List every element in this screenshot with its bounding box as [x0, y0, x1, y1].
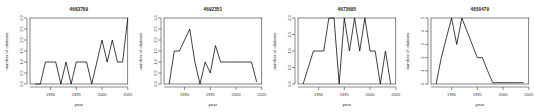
y-tick-label: 3.0 [19, 14, 24, 20]
y-tick-label: 2.0 [287, 14, 292, 20]
x-tick-label: 2005 [257, 92, 267, 97]
chart-panel-4692351: 46923510.00.51.01.52.02.53.0number of ci… [134, 0, 268, 112]
y-tick-label: 3.0 [153, 14, 158, 20]
x-axis-title: year [342, 102, 351, 107]
panel-title: 4650479 [471, 7, 490, 12]
y-tick-label: 1.0 [287, 47, 292, 53]
y-tick-label: 2.5 [19, 25, 24, 31]
y-tick-label: 1.0 [153, 58, 158, 64]
chart-panel-4650479: 4650479012345number of citations19901995… [401, 0, 535, 112]
plot-area-4692351: 46923510.00.51.01.52.02.53.0number of ci… [134, 0, 268, 112]
y-axis-title: number of citations [4, 32, 9, 70]
x-axis-title: year [476, 102, 485, 107]
y-axis-title: number of citations [405, 32, 410, 70]
y-tick-label: 2.0 [19, 36, 24, 42]
plot-box [298, 18, 396, 84]
plot-area-4650479: 4650479012345number of citations19901995… [401, 0, 535, 112]
y-tick-label: 0.0 [287, 80, 292, 86]
x-tick-label: 2005 [391, 92, 401, 97]
y-tick-label: 1.5 [287, 31, 292, 37]
x-tick-label: 2000 [231, 92, 241, 97]
data-line-4650479 [436, 18, 523, 84]
y-tick-label: 0.0 [153, 80, 158, 86]
x-axis-title: year [208, 102, 217, 107]
x-tick-label: 1995 [72, 92, 82, 97]
y-tick-label: 2.0 [153, 36, 158, 42]
x-tick-label: 1990 [314, 92, 324, 97]
x-tick-label: 1995 [339, 92, 349, 97]
y-tick-label: 1.5 [153, 47, 158, 53]
y-tick-label: 1.5 [19, 47, 24, 53]
y-tick-label: 1.0 [19, 58, 24, 64]
data-line-4663769 [35, 18, 128, 84]
x-tick-label: 1990 [180, 92, 190, 97]
chart-panel-4663769: 46637690.00.51.01.52.02.53.0number of ci… [0, 0, 134, 112]
x-tick-label: 2000 [97, 92, 107, 97]
y-axis-title: number of citations [272, 32, 277, 70]
citation-plots-figure: 46637690.00.51.01.52.02.53.0number of ci… [0, 0, 535, 112]
y-tick-label: 0 [420, 82, 425, 85]
plot-area-4673695: 46736950.00.51.01.52.0number of citation… [268, 0, 402, 112]
x-tick-label: 2000 [499, 92, 509, 97]
y-tick-label: 0.0 [19, 80, 24, 86]
x-tick-label: 2005 [524, 92, 534, 97]
y-tick-label: 2 [420, 56, 425, 59]
y-tick-label: 4 [420, 29, 425, 32]
y-tick-label: 1 [420, 69, 425, 72]
plot-area-4663769: 46637690.00.51.01.52.02.53.0number of ci… [0, 0, 134, 112]
x-tick-label: 1995 [473, 92, 483, 97]
panel-title: 4673695 [337, 7, 356, 12]
y-tick-label: 0.5 [19, 69, 24, 75]
panel-title: 4663769 [70, 7, 89, 12]
y-tick-label: 0.5 [287, 64, 292, 70]
x-axis-title: year [75, 102, 84, 107]
x-tick-label: 1990 [46, 92, 56, 97]
y-axis-title: number of citations [138, 32, 143, 70]
chart-panel-4673695: 46736950.00.51.01.52.0number of citation… [268, 0, 402, 112]
y-tick-label: 5 [420, 16, 425, 19]
plot-box [30, 18, 128, 84]
y-tick-label: 2.5 [153, 25, 158, 31]
y-tick-label: 0.5 [153, 69, 158, 75]
x-tick-label: 1995 [205, 92, 215, 97]
y-tick-label: 3 [420, 43, 425, 46]
x-tick-label: 2000 [365, 92, 375, 97]
x-tick-label: 1990 [447, 92, 457, 97]
x-tick-label: 2005 [123, 92, 133, 97]
panel-title: 4692351 [203, 7, 222, 12]
plot-box [431, 18, 529, 84]
data-line-4692351 [169, 29, 256, 84]
data-line-4673695 [303, 18, 390, 84]
